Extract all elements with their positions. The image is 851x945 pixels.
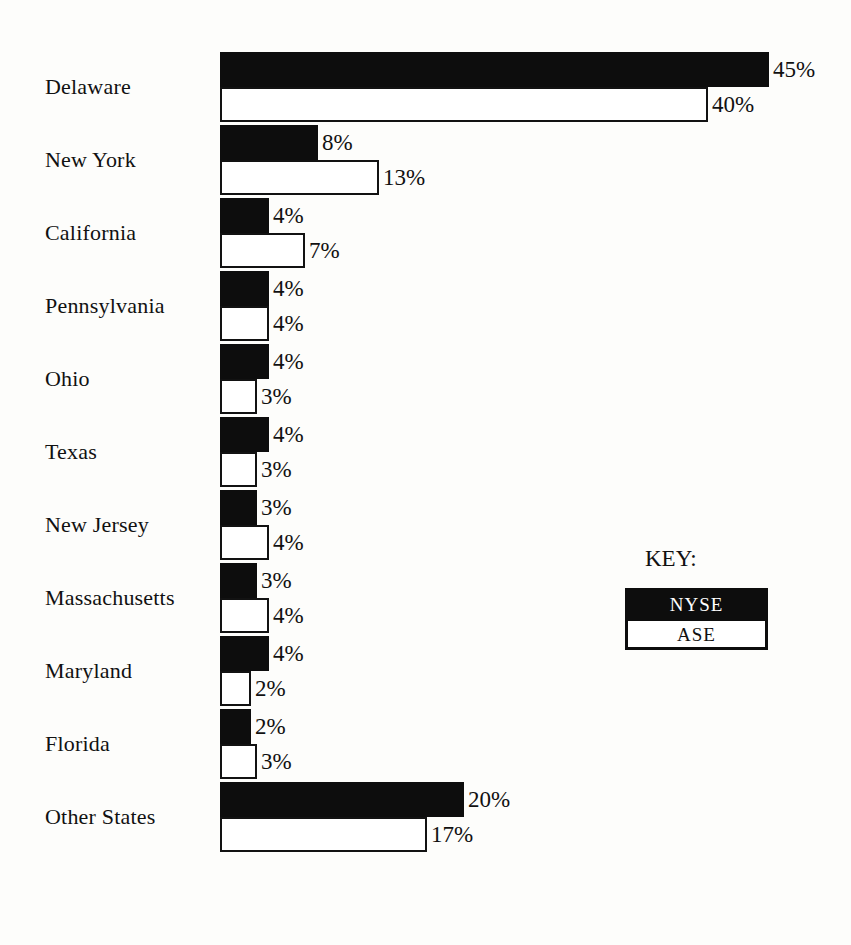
- bar-value-label: 4%: [269, 417, 304, 452]
- bar-ase: [220, 87, 708, 122]
- bar-nyse: [220, 563, 257, 598]
- bar-nyse: [220, 417, 269, 452]
- bar-nyse: [220, 52, 769, 87]
- bar-nyse: [220, 490, 257, 525]
- bar-nyse: [220, 125, 318, 160]
- bar-ase: [220, 160, 379, 195]
- bar-nyse: [220, 782, 464, 817]
- bar-value-label: 17%: [427, 817, 473, 852]
- category-label: New Jersey: [45, 512, 210, 538]
- bar-ase: [220, 233, 305, 268]
- category-label: Texas: [45, 439, 210, 465]
- category-label: Florida: [45, 731, 210, 757]
- bar-value-label: 45%: [769, 52, 815, 87]
- bar-ase: [220, 817, 427, 852]
- bar-value-label: 2%: [251, 709, 286, 744]
- bar-ase: [220, 306, 269, 341]
- bar-value-label: 3%: [257, 563, 292, 598]
- category-label: New York: [45, 147, 210, 173]
- bar-value-label: 4%: [269, 636, 304, 671]
- bar-value-label: 4%: [269, 598, 304, 633]
- bar-value-label: 4%: [269, 525, 304, 560]
- bar-value-label: 3%: [257, 379, 292, 414]
- bar-ase: [220, 598, 269, 633]
- bar-value-label: 40%: [708, 87, 754, 122]
- category-label: Delaware: [45, 74, 210, 100]
- bar-value-label: 3%: [257, 744, 292, 779]
- bar-nyse: [220, 709, 251, 744]
- bar-nyse: [220, 636, 269, 671]
- bar-value-label: 2%: [251, 671, 286, 706]
- bar-ase: [220, 525, 269, 560]
- legend-entry-nyse: NYSE: [628, 591, 765, 619]
- bar-value-label: 4%: [269, 271, 304, 306]
- category-label: California: [45, 220, 210, 246]
- bar-nyse: [220, 198, 269, 233]
- legend-entry-ase: ASE: [628, 619, 765, 647]
- legend-swatch-box: NYSE ASE: [625, 588, 768, 650]
- legend-title: KEY:: [645, 546, 697, 572]
- bar-chart: Delaware45%40%New York8%13%California4%7…: [0, 0, 851, 945]
- bar-value-label: 13%: [379, 160, 425, 195]
- bar-ase: [220, 452, 257, 487]
- category-label: Maryland: [45, 658, 210, 684]
- category-label: Ohio: [45, 366, 210, 392]
- bar-ase: [220, 671, 251, 706]
- bar-ase: [220, 379, 257, 414]
- bar-value-label: 4%: [269, 198, 304, 233]
- bar-value-label: 4%: [269, 344, 304, 379]
- category-label: Other States: [45, 804, 210, 830]
- bar-nyse: [220, 344, 269, 379]
- bar-nyse: [220, 271, 269, 306]
- bar-ase: [220, 744, 257, 779]
- bar-value-label: 4%: [269, 306, 304, 341]
- bar-value-label: 3%: [257, 452, 292, 487]
- category-label: Pennsylvania: [45, 293, 210, 319]
- category-label: Massachusetts: [45, 585, 210, 611]
- bar-value-label: 20%: [464, 782, 510, 817]
- bar-value-label: 3%: [257, 490, 292, 525]
- bar-value-label: 7%: [305, 233, 340, 268]
- bar-value-label: 8%: [318, 125, 353, 160]
